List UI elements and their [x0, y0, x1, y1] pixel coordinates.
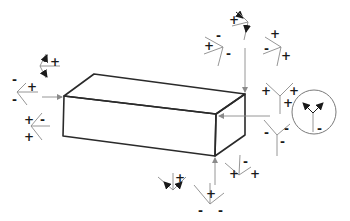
- sign-minus: -: [280, 135, 285, 149]
- sign-plus: +: [204, 39, 214, 53]
- sign-plus: +: [261, 84, 271, 98]
- sign-minus: -: [284, 122, 289, 136]
- incident-arrows: [42, 48, 270, 185]
- symbol-top-left-arrows: +: [40, 54, 60, 78]
- sign-plus: +: [24, 113, 34, 127]
- sign-minus: -: [12, 73, 17, 87]
- symbol-left-lower: + - +: [24, 113, 50, 144]
- sign-plus: +: [24, 130, 34, 144]
- box-top-face: [64, 74, 245, 114]
- sign-minus: -: [40, 113, 45, 127]
- sign-minus: -: [198, 204, 203, 218]
- sign-minus: -: [226, 47, 231, 61]
- sign-plus: +: [270, 27, 280, 41]
- symbol-left: - + -: [12, 73, 38, 107]
- sign-minus: -: [317, 122, 322, 136]
- box-front-face: [63, 96, 216, 156]
- sign-plus: +: [206, 187, 216, 201]
- sign-plus: +: [229, 13, 239, 27]
- symbol-top-right-arrows: +: [229, 12, 248, 40]
- symbol-circle-detail: -: [292, 90, 336, 136]
- symbol-right-lower: - - -: [264, 120, 290, 156]
- symbol-top-right-b: + - +: [263, 27, 291, 66]
- sign-plus: +: [250, 167, 260, 181]
- symbol-bottom-right: + - +: [225, 155, 260, 181]
- sign-plus: +: [229, 167, 239, 181]
- sign-minus: -: [243, 155, 248, 169]
- sign-plus: +: [175, 171, 185, 185]
- symbol-bottom-arrows: +: [158, 171, 186, 190]
- symbol-right-upper: + + +: [261, 83, 299, 114]
- symbol-bottom-center: + - -: [194, 183, 224, 218]
- sign-minus: -: [12, 93, 17, 107]
- sign-minus: -: [216, 29, 221, 43]
- symbol-top-right-a: + - -: [204, 29, 231, 66]
- sign-plus: +: [283, 96, 293, 110]
- sign-plus: +: [27, 80, 37, 94]
- box: [63, 74, 245, 156]
- sign-minus: -: [264, 126, 269, 140]
- isometric-box-diagram: + - + - + - + + + - - + - +: [0, 0, 350, 221]
- box-right-face: [215, 94, 245, 156]
- sign-plus: +: [281, 49, 291, 63]
- sign-plus: +: [50, 55, 60, 69]
- sign-minus: -: [264, 42, 269, 56]
- sign-minus: -: [218, 204, 223, 218]
